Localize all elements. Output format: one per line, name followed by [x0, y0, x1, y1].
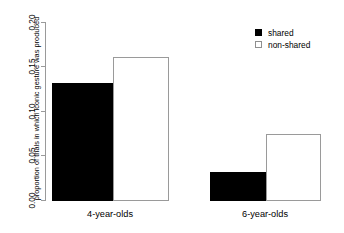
legend-label-non-shared: non-shared [268, 40, 310, 50]
y-tick-label-0.20: 0.20 [28, 11, 37, 35]
legend-swatch-open-square-icon [255, 41, 262, 48]
y-tick-0.15 [41, 66, 45, 67]
y-tick-0.05 [41, 155, 45, 156]
bar-6yo-non-shared [266, 134, 321, 201]
bar-4yo-non-shared [113, 57, 169, 201]
y-tick-label-0.10: 0.10 [28, 100, 37, 124]
x-tick-label-6-year-olds: 6-year-olds [215, 209, 315, 219]
legend-label-shared: shared [268, 28, 294, 38]
y-axis-line [45, 22, 46, 201]
y-tick-0.10 [41, 111, 45, 112]
bar-6yo-shared [210, 172, 267, 201]
y-tick-label-0.15: 0.15 [28, 55, 37, 79]
legend-item-non-shared: non-shared [255, 39, 310, 50]
chart-legend: shared non-shared [255, 27, 310, 51]
bar-chart-figure: proportion of trials in which iconic ges… [0, 0, 344, 233]
x-tick-label-4-year-olds: 4-year-olds [60, 209, 160, 219]
bar-4yo-shared [52, 83, 114, 201]
legend-swatch-filled-square-icon [255, 29, 262, 36]
y-tick-0.00 [41, 200, 45, 201]
y-tick-label-0.00: 0.00 [28, 189, 37, 213]
y-tick-0.20 [41, 22, 45, 23]
legend-item-shared: shared [255, 27, 310, 38]
y-tick-label-0.05: 0.05 [28, 144, 37, 168]
